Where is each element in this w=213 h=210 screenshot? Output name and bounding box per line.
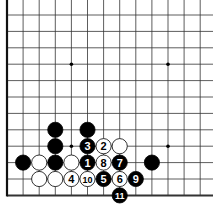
board-grid: 3218741056911 <box>0 0 213 210</box>
move-number: 2 <box>101 140 107 152</box>
move-number: 4 <box>68 173 75 185</box>
move-number: 1 <box>84 157 90 169</box>
black-stone <box>80 122 95 137</box>
move-number: 9 <box>133 173 139 185</box>
hoshi-point <box>70 62 74 66</box>
move-number: 7 <box>117 157 123 169</box>
white-stone <box>32 155 47 170</box>
move-number: 6 <box>117 173 123 185</box>
move-number: 3 <box>84 140 90 152</box>
hoshi-point <box>166 62 170 66</box>
white-stone <box>112 139 127 154</box>
move-number: 10 <box>82 175 92 185</box>
black-stone <box>16 155 31 170</box>
hoshi-point <box>70 144 74 148</box>
black-stone <box>48 155 63 170</box>
move-number: 11 <box>115 191 125 201</box>
move-number: 5 <box>101 173 107 185</box>
white-stone <box>48 171 63 186</box>
white-stone <box>64 155 79 170</box>
move-number: 8 <box>101 157 107 169</box>
go-board-diagram: 3218741056911 <box>0 0 213 210</box>
black-stone <box>48 122 63 137</box>
black-stone <box>48 139 63 154</box>
black-stone <box>144 155 159 170</box>
white-stone <box>32 171 47 186</box>
hoshi-point <box>166 144 170 148</box>
